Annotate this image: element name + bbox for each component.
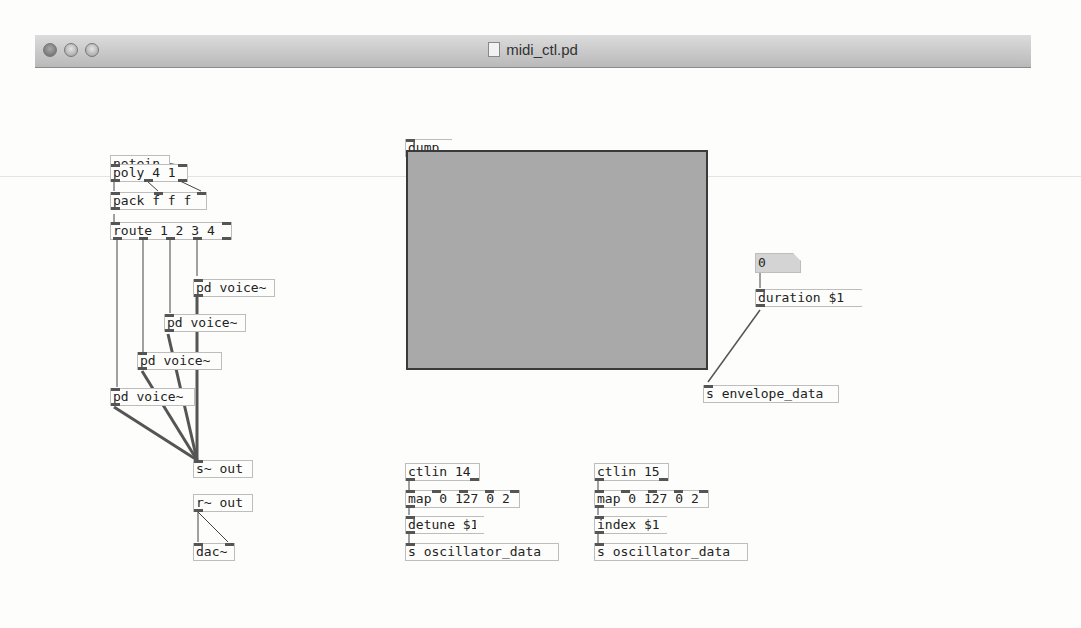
duration-message[interactable]: duration $1 xyxy=(755,289,861,307)
envelope-array-graph[interactable] xyxy=(406,150,708,370)
map-object-2[interactable]: map 0 127 0 2 xyxy=(594,490,709,508)
object-label: pack f f f xyxy=(113,193,191,208)
ctlin-14-object[interactable]: ctlin 14 xyxy=(405,463,480,481)
object-label: s oscillator_data xyxy=(597,544,730,559)
window-titlebar[interactable]: midi_ctl.pd xyxy=(35,35,1031,68)
number-box[interactable]: 0 xyxy=(755,253,801,273)
message-label: detune $1 xyxy=(408,517,478,532)
send-envelope-object[interactable]: s envelope_data xyxy=(703,385,839,403)
object-label: s~ out xyxy=(196,461,243,476)
voice-object-2[interactable]: pd voice~ xyxy=(137,352,222,370)
object-label: pd voice~ xyxy=(140,353,210,368)
map-object-1[interactable]: map 0 127 0 2 xyxy=(405,490,520,508)
route-object[interactable]: route 1 2 3 4 xyxy=(110,222,232,240)
object-label: dac~ xyxy=(196,544,227,559)
receive-out-object[interactable]: r~ out xyxy=(193,494,253,512)
voice-object-4[interactable]: pd voice~ xyxy=(193,279,275,297)
object-label: ctlin 15 xyxy=(597,464,660,479)
object-label: poly 4 1 xyxy=(113,165,176,180)
send-oscillator-object-2[interactable]: s oscillator_data xyxy=(594,543,748,561)
pack-object[interactable]: pack f f f xyxy=(110,192,207,210)
voice-object-1[interactable]: pd voice~ xyxy=(110,388,195,406)
object-label: pd voice~ xyxy=(196,280,266,295)
object-label: r~ out xyxy=(196,495,243,510)
message-label: duration $1 xyxy=(758,290,844,305)
object-label: route 1 2 3 4 xyxy=(113,223,215,238)
poly-object[interactable]: poly 4 1 xyxy=(110,164,188,182)
object-label: map 0 127 0 2 xyxy=(597,491,699,506)
send-oscillator-object-1[interactable]: s oscillator_data xyxy=(405,543,559,561)
object-label: pd voice~ xyxy=(167,315,237,330)
index-message[interactable]: index $1 xyxy=(594,516,666,534)
voice-object-3[interactable]: pd voice~ xyxy=(164,314,246,332)
message-label: index $1 xyxy=(597,517,660,532)
window-title: midi_ctl.pd xyxy=(506,41,578,58)
window-title-wrap: midi_ctl.pd xyxy=(35,41,1031,58)
object-label: pd voice~ xyxy=(113,389,183,404)
number-value: 0 xyxy=(758,255,766,270)
object-label: s oscillator_data xyxy=(408,544,541,559)
object-label: ctlin 14 xyxy=(408,464,471,479)
document-icon xyxy=(488,42,500,57)
object-label: map 0 127 0 2 xyxy=(408,491,510,506)
detune-message[interactable]: detune $1 xyxy=(405,516,483,534)
dac-object[interactable]: dac~ xyxy=(193,543,235,561)
ctlin-15-object[interactable]: ctlin 15 xyxy=(594,463,669,481)
object-label: s envelope_data xyxy=(706,386,823,401)
send-out-object[interactable]: s~ out xyxy=(193,460,253,478)
